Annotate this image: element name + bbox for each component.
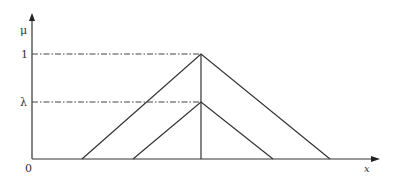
x-axis-arrow-icon — [371, 156, 380, 162]
tick-label-lambda: λ — [20, 96, 27, 109]
x-axis-label: x — [364, 163, 370, 174]
origin-label: 0 — [25, 162, 32, 175]
y-axis-label: μ — [20, 24, 27, 37]
fuzzy-diagram: μ 1 λ 0 x — [0, 0, 394, 182]
y-axis-arrow-icon — [29, 13, 35, 21]
inner-triangle — [133, 102, 273, 159]
tick-label-1: 1 — [21, 48, 28, 61]
